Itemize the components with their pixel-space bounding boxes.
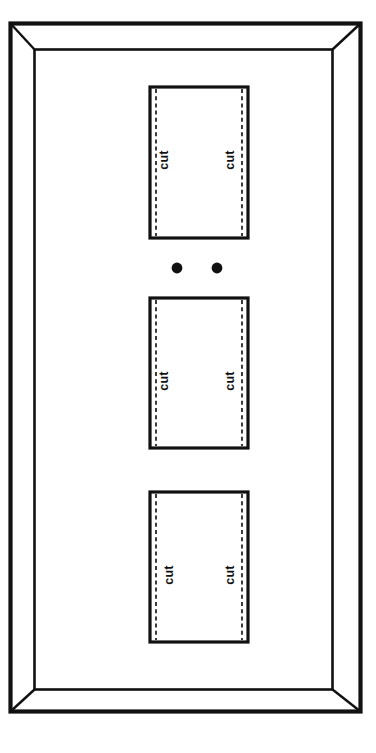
diagram-canvas: cut cut cut cut cut cut (0, 0, 376, 753)
cut-template-drawing: cut cut cut cut cut cut (0, 0, 376, 753)
cut-label-top-left: cut (157, 150, 171, 170)
cut-rect-bottom: cut cut (150, 492, 248, 642)
screw-hole-right (212, 263, 223, 274)
cut-rect-top: cut cut (150, 87, 248, 238)
cut-label-middle-left: cut (157, 371, 171, 391)
cut-rect-middle: cut cut (150, 298, 248, 448)
screw-hole-left (172, 263, 183, 274)
cut-label-top-right: cut (223, 150, 237, 170)
cut-label-middle-right: cut (223, 371, 237, 391)
cut-label-bottom-left: cut (162, 565, 176, 585)
cut-label-bottom-right: cut (223, 565, 237, 585)
